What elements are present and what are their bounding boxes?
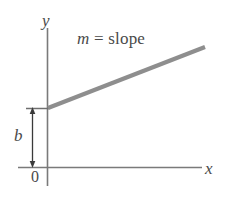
x-axis-label: x <box>205 160 213 177</box>
slope-intercept-diagram: y x 0 b m = slope <box>0 0 226 200</box>
origin-label: 0 <box>31 169 39 185</box>
slope-word: slope <box>108 29 145 48</box>
y-intercept-measure <box>30 107 36 168</box>
slope-symbol: m <box>77 29 89 48</box>
y-axis-label: y <box>42 12 50 29</box>
slope-annotation-label: m = slope <box>77 30 145 47</box>
y-intercept-label: b <box>14 127 23 144</box>
slope-equals: = <box>94 29 104 48</box>
sloped-line <box>48 47 205 108</box>
